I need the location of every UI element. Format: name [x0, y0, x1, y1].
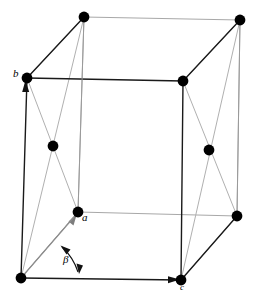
atom-front-top-right [178, 76, 189, 87]
edge-front-left [21, 78, 27, 278]
axis-label-a: a [82, 212, 88, 223]
unit-cell-svg [0, 0, 255, 304]
atom-right-face-center [204, 145, 215, 156]
edge-depth-top-right [183, 20, 240, 81]
edge-back-top [84, 17, 240, 20]
atom-front-bottom-left [16, 273, 27, 284]
axis-label-c: c [180, 283, 184, 292]
axis-arrows [22, 80, 180, 283]
atom-front-top-left [22, 73, 33, 84]
edge-front-top [27, 78, 183, 81]
edge-front-bottom [21, 278, 181, 280]
edge-front-right [181, 81, 183, 280]
edge-back-bottom [78, 212, 237, 216]
edge-depth-top-left [27, 17, 84, 78]
atom-back-bottom-right [232, 211, 243, 222]
edge-depth-bottom-right [181, 216, 237, 280]
edge-back-vert-right [237, 20, 240, 216]
atom-back-top-left [79, 12, 90, 23]
unit-cell-figure: b a c β [0, 0, 255, 304]
axis-a-shaft [21, 217, 74, 278]
atom-back-top-right [235, 15, 246, 26]
angle-label-beta: β [63, 254, 68, 265]
axis-label-b: b [13, 68, 19, 79]
beta-arrow-lower [77, 264, 84, 275]
edge-back-vert-left [78, 17, 84, 212]
atom-left-face-center [48, 141, 59, 152]
